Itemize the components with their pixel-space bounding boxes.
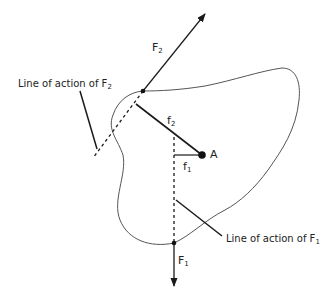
- f2-application-point: [141, 89, 146, 94]
- force-f1-label: F1: [178, 254, 189, 268]
- moment-arm-f2-label: f2: [167, 114, 175, 128]
- point-a-dot: [198, 151, 206, 159]
- leader-line-f2: [80, 91, 97, 149]
- line-of-action-f2: [93, 91, 143, 158]
- point-a-label: A: [210, 148, 218, 161]
- force-f2-label: F2: [152, 41, 163, 55]
- free-body-diagram: A F2 F1 f2 f1 Line of action of F2 Line …: [0, 0, 333, 297]
- leader-line-f1: [176, 200, 222, 236]
- callout-line-of-action-f2: Line of action of F2: [18, 78, 112, 91]
- callout-line-of-action-f1: Line of action of F1: [226, 233, 320, 246]
- moment-arm-f2: [136, 104, 202, 155]
- f1-application-point: [172, 241, 177, 246]
- moment-arm-f1-label: f1: [183, 160, 191, 174]
